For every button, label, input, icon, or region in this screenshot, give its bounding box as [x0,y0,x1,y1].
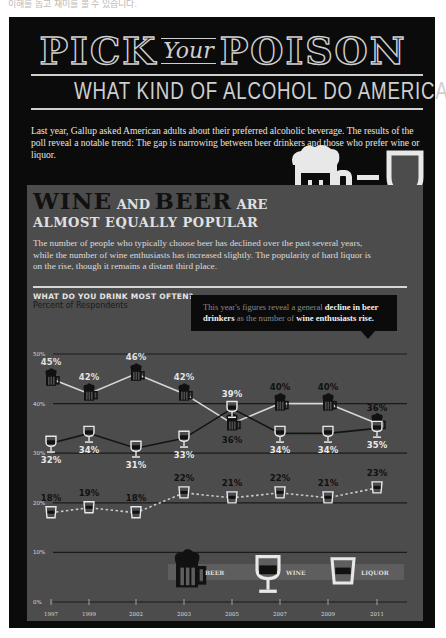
data-label: 22% [174,473,195,483]
x-tick-label: 1997 [44,611,58,617]
data-label: 18% [41,493,62,503]
wine-glass-icon [84,426,94,443]
legend-label: BEER [205,569,225,576]
data-label: 34% [79,445,100,455]
data-label: 34% [318,445,339,455]
y-tick-label: 0% [33,599,42,605]
beer-mug-icon [83,383,97,401]
shot-glass-icon [179,487,189,498]
wine-glass-icon [46,436,56,453]
beer-mug-icon [130,363,144,381]
x-tick-label: 2011 [370,611,384,617]
x-tick-label: 2002 [129,611,143,617]
legend-label: WINE [285,569,306,576]
shot-glass-icon [227,492,237,503]
data-label: 36% [222,435,243,445]
data-label: 36% [367,403,388,413]
line-chart: 0%10%20%30%40%50%19971999200220032005200… [27,185,423,621]
data-label: 39% [222,389,243,399]
subtitle: WHAT KIND OF ALCOHOL DO AMERICANS PREFER… [74,77,380,105]
wine-glass-icon [372,421,382,438]
shot-glass-icon [131,507,141,518]
right-border [423,185,435,621]
beer-mug-icon [45,368,59,386]
y-tick-label: 10% [33,549,45,555]
title-poison: POISON [220,29,407,73]
data-label: 46% [126,352,147,362]
y-tick-label: 40% [33,401,45,407]
data-label: 22% [270,473,291,483]
legend-beer-mug-icon [175,549,205,588]
title-divider [31,74,423,76]
wine-glass-icon [131,441,141,458]
x-tick-label: 2009 [321,611,335,617]
data-label: 31% [126,460,147,470]
data-label: 21% [318,478,339,488]
data-label: 19% [79,488,100,498]
wine-glass-icon [179,431,189,448]
wine-glass-icon [323,426,333,443]
data-label: 42% [79,372,100,382]
main-title: PICK Your POISON [23,29,423,73]
top-note: 이해를 돕고 재미를 볼 수 있습니다. [8,0,137,10]
data-label: 45% [41,357,62,367]
beer-mug-icon [178,383,192,401]
data-label: 42% [174,372,195,382]
shot-glass-icon [275,487,285,498]
shot-glass-icon [323,492,333,503]
wine-glass-icon [275,426,285,443]
beer-mug-icon [322,393,336,411]
infographic-poster: PICK Your POISON WHAT KIND OF ALCOHOL DO… [9,17,435,628]
x-tick-label: 2007 [273,611,287,617]
data-label: 35% [367,440,388,450]
data-label: 18% [126,493,147,503]
data-label: 32% [41,455,62,465]
title-your: Your [161,38,216,64]
x-tick-label: 2003 [177,611,191,617]
shot-glass-icon [372,482,382,493]
data-label: 23% [367,468,388,478]
legend-wine-glass-icon [257,557,279,593]
data-label: 21% [222,478,243,488]
chart-panel: WINE AND BEER ARE ALMOST EQUALLY POPULAR… [27,185,423,621]
series-wine: 32%34%31%33%39%34%34%35% [41,389,388,471]
data-label: 34% [270,445,291,455]
subtitle-divider [31,108,423,110]
data-label: 40% [270,382,291,392]
legend-shot-glass-icon [332,559,354,583]
x-tick-label: 2005 [225,611,239,617]
beer-mug-icon [226,413,240,431]
header: PICK Your POISON WHAT KIND OF ALCOHOL DO… [9,17,435,112]
data-label: 33% [174,450,195,460]
data-label: 40% [318,382,339,392]
beer-mug-icon [274,393,288,411]
shot-glass-icon [46,507,56,518]
chart-legend: BEERWINELIQUOR [168,549,404,593]
title-pick: PICK [40,29,158,73]
x-tick-label: 1999 [82,611,96,617]
shot-glass-icon [84,502,94,513]
series-liquor: 18%19%18%22%21%22%21%23% [41,468,388,518]
legend-label: LIQUOR [361,569,390,577]
